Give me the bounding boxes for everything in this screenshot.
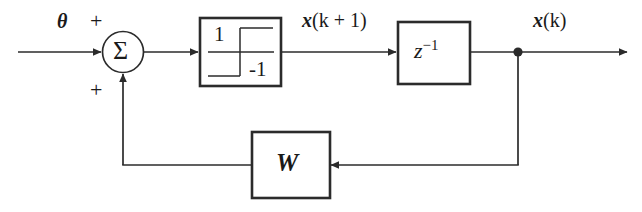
delay-exponent: −1 xyxy=(423,37,439,53)
state-next-symbol: x xyxy=(302,9,312,31)
block-diagram-figure: θ + + Σ 1 -1 x(k + 1) z−1 x(k) W xyxy=(0,0,642,212)
limiter-lower-level-label: -1 xyxy=(249,59,267,80)
limiter-upper-level-label: 1 xyxy=(214,24,225,45)
state-next-argument: (k + 1) xyxy=(312,9,367,31)
input-signal-label: θ xyxy=(57,11,67,31)
sum-plus-bottom-label: + xyxy=(90,79,102,101)
state-current-argument: (k) xyxy=(543,9,566,31)
state-current-symbol: x xyxy=(533,9,543,31)
state-current-label: x(k) xyxy=(533,10,566,30)
delay-base-symbol: z xyxy=(414,38,423,63)
delay-block-label: z−1 xyxy=(414,38,438,62)
summation-symbol-label: Σ xyxy=(113,38,128,64)
sum-plus-top-label: + xyxy=(90,10,102,32)
state-next-label: x(k + 1) xyxy=(302,10,367,30)
weight-matrix-label: W xyxy=(276,150,298,175)
